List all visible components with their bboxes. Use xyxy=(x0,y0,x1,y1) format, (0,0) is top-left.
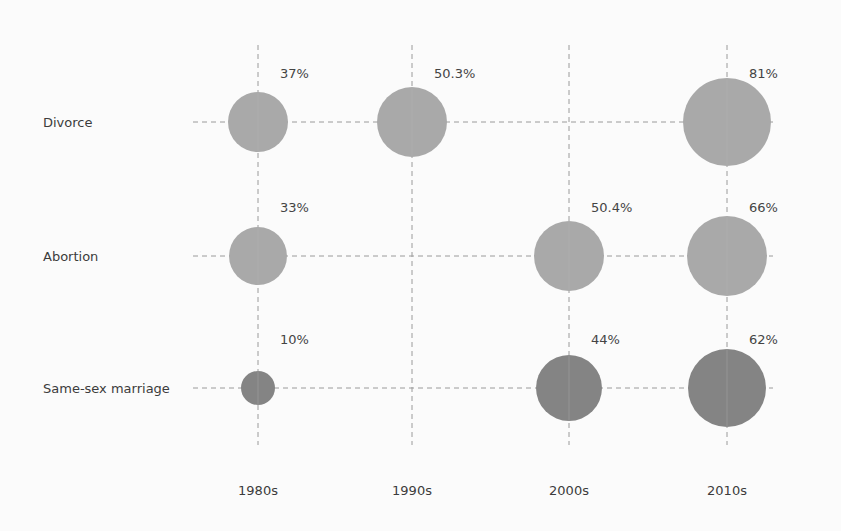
value-label-divorce-1980s: 37% xyxy=(280,66,309,81)
value-label-divorce-1990s: 50.3% xyxy=(434,66,475,81)
value-label-same-sex-marriage-2000s: 44% xyxy=(591,332,620,347)
value-label-abortion-2010s: 66% xyxy=(749,200,778,215)
column-label-2000s: 2000s xyxy=(549,483,589,498)
column-label-1980s: 1980s xyxy=(238,483,278,498)
chart-canvas xyxy=(0,0,841,531)
value-label-abortion-1980s: 33% xyxy=(280,200,309,215)
bubble-chart: 37%50.3%81%33%50.4%66%10%44%62%DivorceAb… xyxy=(0,0,841,531)
row-label-divorce: Divorce xyxy=(43,115,92,130)
column-label-1990s: 1990s xyxy=(392,483,432,498)
value-label-abortion-2000s: 50.4% xyxy=(591,200,632,215)
row-label-same-sex-marriage: Same-sex marriage xyxy=(43,381,170,396)
value-label-same-sex-marriage-1980s: 10% xyxy=(280,332,309,347)
row-label-abortion: Abortion xyxy=(43,249,98,264)
value-label-same-sex-marriage-2010s: 62% xyxy=(749,332,778,347)
column-label-2010s: 2010s xyxy=(707,483,747,498)
value-label-divorce-2010s: 81% xyxy=(749,66,778,81)
